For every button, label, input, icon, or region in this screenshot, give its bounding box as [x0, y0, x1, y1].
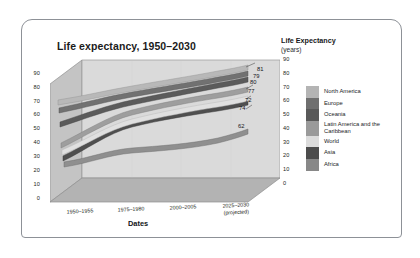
- legend-swatch-north-america: [306, 86, 319, 98]
- point-label-north-america: 81: [257, 66, 263, 72]
- chart-svg: [50, 52, 280, 212]
- legend-swatch-africa: [306, 159, 319, 171]
- x-axis-title: Dates: [128, 219, 148, 228]
- chart-legend: North America Europe Oceania Latin Ameri…: [306, 86, 394, 171]
- legend-swatch-oceania: [306, 109, 319, 121]
- y-axis-tick-left-80: 80: [26, 84, 40, 90]
- point-label-oceania: 80: [250, 79, 256, 85]
- y-axis-tick-right-30: 30: [283, 139, 297, 145]
- legend-swatch-asia: [306, 147, 319, 159]
- legend-label-africa: Africa: [324, 159, 339, 168]
- y-axis-tick-right-0: 0: [283, 180, 297, 186]
- y-axis-tick-left-10: 10: [26, 181, 40, 187]
- point-label-asia: 74: [239, 105, 245, 111]
- y-axis-tick-left-60: 60: [26, 111, 40, 117]
- point-label-latin-america: 77: [248, 88, 254, 94]
- y-axis-title: Life Expectancy: [281, 37, 336, 45]
- plot-floor: [50, 178, 280, 202]
- y-axis-tick-right-90: 90: [283, 56, 297, 62]
- legend-item-latin-america[interactable]: Latin America and the Caribbean: [306, 121, 394, 136]
- y-axis-tick-left-40: 40: [26, 139, 40, 145]
- y-axis-tick-right-20: 20: [283, 152, 297, 158]
- y-axis-tick-left-0: 0: [26, 195, 40, 201]
- legend-label-oceania: Oceania: [324, 109, 346, 118]
- x-axis-tick-2025-2030: 2025–2030 (projected): [211, 201, 262, 217]
- legend-item-world[interactable]: World: [306, 136, 394, 148]
- y-axis-tick-right-50: 50: [283, 111, 297, 117]
- legend-item-oceania[interactable]: Oceania: [306, 109, 394, 121]
- legend-swatch-europe: [306, 98, 319, 110]
- legend-item-europe[interactable]: Europe: [306, 98, 394, 110]
- legend-label-world: World: [324, 136, 339, 145]
- legend-item-north-america[interactable]: North America: [306, 86, 394, 98]
- plot-left-wall: [50, 60, 82, 202]
- legend-item-asia[interactable]: Asia: [306, 147, 394, 159]
- y-axis-tick-left-90: 90: [26, 70, 40, 76]
- y-axis-tick-left-30: 30: [26, 153, 40, 159]
- chart-plot-area: [50, 52, 280, 212]
- legend-item-africa[interactable]: Africa: [306, 159, 394, 171]
- legend-label-europe: Europe: [324, 98, 343, 107]
- y-axis-tick-right-80: 80: [283, 70, 297, 76]
- y-axis-tick-left-20: 20: [26, 167, 40, 173]
- y-axis-tick-right-10: 10: [283, 166, 297, 172]
- y-axis-tick-right-60: 60: [283, 97, 297, 103]
- point-label-world: 72: [245, 97, 251, 103]
- y-axis-tick-right-70: 70: [283, 84, 297, 90]
- y-axis-units: (years): [281, 46, 302, 53]
- legend-swatch-latin-america: [306, 121, 319, 136]
- y-axis-tick-right-40: 40: [283, 125, 297, 131]
- point-label-africa: 62: [238, 123, 244, 129]
- legend-swatch-world: [306, 136, 319, 148]
- legend-label-north-america: North America: [324, 86, 361, 95]
- legend-label-asia: Asia: [324, 147, 335, 156]
- chart-title: Life expectancy, 1950–2030: [57, 40, 196, 52]
- legend-label-latin-america: Latin America and the Caribbean: [324, 121, 386, 135]
- y-axis-tick-left-70: 70: [26, 98, 40, 104]
- y-axis-tick-left-50: 50: [26, 125, 40, 131]
